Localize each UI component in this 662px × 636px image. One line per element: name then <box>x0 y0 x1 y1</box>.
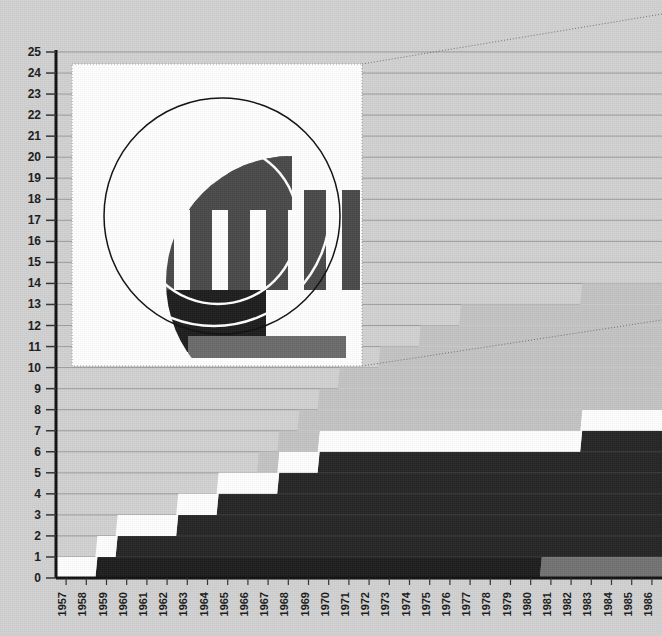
y-tick-label: 23 <box>28 87 42 101</box>
y-axis-ticks: 0123456789101112131415161718192021222324… <box>28 45 56 585</box>
y-tick-label: 8 <box>34 403 41 417</box>
x-tick-label: 1970 <box>319 592 331 616</box>
inset-bar <box>342 190 360 290</box>
x-tick-label: 1984 <box>602 591 614 616</box>
x-tick-label: 1957 <box>56 592 68 616</box>
x-tick-label: 1963 <box>177 592 189 616</box>
inset-bar <box>304 190 326 290</box>
y-tick-label: 5 <box>34 466 41 480</box>
y-tick-label: 16 <box>28 234 42 248</box>
y-tick-label: 17 <box>28 213 42 227</box>
x-tick-label: 1972 <box>359 592 371 616</box>
x-tick-label: 1967 <box>258 592 270 616</box>
y-tick-label: 7 <box>34 424 41 438</box>
y-tick-label: 3 <box>34 508 41 522</box>
x-tick-label: 1986 <box>642 592 654 616</box>
y-tick-label: 2 <box>34 529 41 543</box>
x-tick-label: 1965 <box>218 592 230 616</box>
x-tick-label: 1983 <box>581 592 593 616</box>
x-tick-label: 1959 <box>97 592 109 616</box>
x-tick-label: 1969 <box>299 592 311 616</box>
y-tick-label: 1 <box>34 550 41 564</box>
x-tick-label: 1974 <box>400 591 412 616</box>
x-tick-label: 1979 <box>501 592 513 616</box>
callout-leader-top <box>362 14 662 64</box>
y-tick-label: 19 <box>28 171 42 185</box>
x-tick-label: 1958 <box>76 592 88 616</box>
x-tick-label: 1981 <box>541 592 553 616</box>
y-tick-label: 4 <box>34 487 41 501</box>
y-tick-label: 9 <box>34 382 41 396</box>
x-tick-label: 1961 <box>137 592 149 616</box>
y-tick-label: 22 <box>28 108 42 122</box>
y-tick-label: 13 <box>28 297 42 311</box>
x-axis-ticks: 1957195819591960196119621963196419651966… <box>56 578 654 616</box>
inset-bottom-bar <box>188 336 346 358</box>
x-tick-label: 1966 <box>238 592 250 616</box>
y-tick-label: 14 <box>28 276 42 290</box>
x-tick-label: 1978 <box>480 592 492 616</box>
x-tick-label: 1964 <box>198 591 210 616</box>
y-tick-label: 21 <box>28 129 42 143</box>
y-tick-label: 0 <box>34 571 41 585</box>
y-tick-label: 15 <box>28 255 42 269</box>
area-band-band-4-dark-main <box>56 431 662 578</box>
x-tick-label: 1971 <box>339 592 351 616</box>
y-tick-label: 20 <box>28 150 42 164</box>
x-tick-label: 1977 <box>460 592 472 616</box>
figure-root: 0123456789101112131415161718192021222324… <box>0 0 662 636</box>
y-tick-label: 25 <box>28 45 42 59</box>
x-tick-label: 1960 <box>117 592 129 616</box>
x-tick-label: 1973 <box>379 592 391 616</box>
x-tick-label: 1962 <box>157 592 169 616</box>
y-tick-label: 24 <box>28 66 42 80</box>
chart-svg: 0123456789101112131415161718192021222324… <box>0 0 662 636</box>
y-tick-label: 18 <box>28 192 42 206</box>
y-tick-label: 6 <box>34 445 41 459</box>
x-tick-label: 1982 <box>561 592 573 616</box>
x-tick-label: 1985 <box>622 592 634 616</box>
x-tick-label: 1975 <box>420 592 432 616</box>
x-tick-label: 1976 <box>440 592 452 616</box>
y-tick-label: 10 <box>28 361 42 375</box>
y-tick-label: 11 <box>28 340 41 354</box>
x-tick-label: 1968 <box>278 592 290 616</box>
x-tick-label: 1980 <box>521 592 533 616</box>
y-tick-label: 12 <box>28 319 42 333</box>
